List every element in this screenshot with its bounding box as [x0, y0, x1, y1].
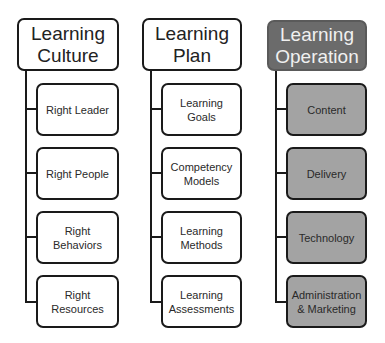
connector-trunk	[275, 71, 277, 303]
node-label: Administration	[292, 289, 362, 301]
header-learning-operation: LearningOperation	[267, 20, 367, 71]
node-label: Content	[307, 104, 346, 116]
header-title-line1: Learning	[280, 24, 354, 45]
node-label: Technology	[299, 232, 355, 244]
node-delivery: Delivery	[286, 147, 367, 200]
node-administration-marketing: Administration& Marketing	[286, 275, 367, 328]
node-label: Delivery	[307, 168, 347, 180]
column-learning-operation: LearningOperation Content Delivery Techn…	[0, 0, 385, 343]
node-label-line2: & Marketing	[297, 303, 356, 315]
header-title-line2: Operation	[275, 46, 358, 67]
node-content: Content	[286, 83, 367, 136]
node-technology: Technology	[286, 211, 367, 264]
